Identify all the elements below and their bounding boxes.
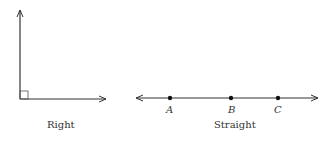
point-c	[276, 96, 280, 100]
point-b	[229, 96, 233, 100]
right-label: Right	[47, 119, 75, 130]
straight-line	[136, 96, 318, 100]
point-c-label: C	[274, 104, 282, 115]
point-b-label: B	[228, 104, 235, 115]
straight-label: Straight	[214, 119, 256, 130]
right-angle	[20, 10, 106, 99]
point-a-label: A	[166, 104, 173, 115]
point-a	[168, 96, 172, 100]
right-angle-mark	[20, 91, 28, 99]
